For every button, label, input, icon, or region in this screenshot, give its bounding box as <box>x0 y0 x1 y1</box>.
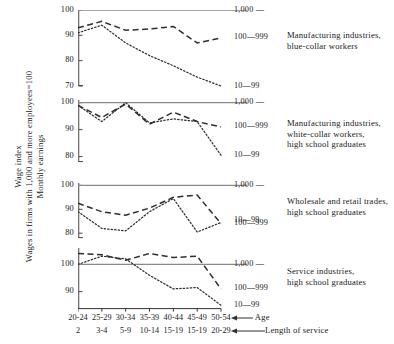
y-axis-tick-label: 90 <box>52 286 74 295</box>
service-annotation-label: Length of service <box>265 325 329 335</box>
x-tick-label-age: 35-39 <box>140 313 160 322</box>
y-axis-title-line-1: Wage index <box>13 42 24 292</box>
panel-caption-line: high school graduates <box>287 139 381 150</box>
series-key-label: 1,000 — <box>234 5 264 14</box>
x-tick-label-service: 10-14 <box>140 326 160 335</box>
wage-index-figure: Wage index Wages in firms with 1,000 and… <box>0 0 394 344</box>
data-series-line <box>78 195 221 224</box>
age-annotation-label: Age <box>253 312 270 322</box>
y-axis-tick-label: 90 <box>52 204 74 213</box>
panel-caption: Manufacturing industries,blue-collar wor… <box>287 30 381 51</box>
y-axis-tick-label: 100 <box>52 259 74 268</box>
data-series-line <box>78 25 221 86</box>
service-arrow-icon <box>231 327 265 335</box>
panel-caption-line: blue-collar workers <box>287 41 381 52</box>
x-tick-label-service: 5-9 <box>120 326 131 335</box>
x-tick-label-age: 50-54 <box>211 313 231 322</box>
chart-panel <box>78 183 221 238</box>
x-tick-label-age: 45-49 <box>187 313 207 322</box>
data-series-line <box>78 104 221 127</box>
y-axis-tick-label: 100 <box>52 5 74 14</box>
x-tick-label-age: 20-24 <box>68 313 88 322</box>
panel-plot <box>78 100 255 164</box>
y-axis-title-line-3: Monthly earnings <box>35 42 46 292</box>
data-series-line <box>78 256 221 305</box>
chart-panel <box>78 10 221 86</box>
x-axis <box>78 308 227 314</box>
panel-caption-line: Service industries, <box>287 266 366 277</box>
series-key-label: 10—99 <box>234 215 260 224</box>
x-axis-age-ticks: 20-2425-2930-3435-3940-4445-4950-54 <box>78 313 221 325</box>
series-key-label: 10—99 <box>234 300 260 309</box>
panel-caption-line: high school graduates <box>287 277 366 288</box>
panel-caption: Service industries,high school graduates <box>287 266 366 287</box>
y-axis-tick-label: 100 <box>52 97 74 106</box>
series-key-label: 10—99 <box>234 150 260 159</box>
chart-panel <box>78 248 221 308</box>
panel-caption-line: Wholesale and retail trades, <box>287 196 388 207</box>
panel-caption-line: high school graduates <box>287 207 388 218</box>
series-key-label: 100—999 <box>234 32 268 41</box>
chart-panel <box>78 100 221 162</box>
panel-caption: Manufacturing industries,white-collar wo… <box>287 118 381 150</box>
series-key-label: 100—999 <box>234 121 268 130</box>
y-axis-title: Wage index Wages in firms with 1,000 and… <box>13 42 46 292</box>
y-axis-tick-label: 90 <box>52 124 74 133</box>
x-axis-service-ticks: 23-45-910-1415-1915-1920-29 <box>78 326 221 338</box>
x-tick-label-service: 20-29 <box>211 326 231 335</box>
y-axis-tick-label: 80 <box>52 228 74 237</box>
x-tick-label-age: 40-44 <box>164 313 184 322</box>
y-axis-tick-label: 100 <box>52 180 74 189</box>
panel-caption-line: white-collar workers, <box>287 129 381 140</box>
x-tick-label-service: 3-4 <box>96 326 107 335</box>
series-key-label: 1,000 — <box>234 180 264 189</box>
age-arrow-icon <box>231 314 253 322</box>
data-series-line <box>78 253 221 288</box>
y-axis-title-line-2: Wages in firms with 1,000 and more emplo… <box>24 42 35 292</box>
series-key-label: 100—999 <box>234 283 268 292</box>
series-key-label: 1,000 — <box>234 97 264 106</box>
series-key-label: 1,000 — <box>234 259 264 268</box>
panel-plot <box>78 183 255 240</box>
x-tick-label-service: 15-19 <box>164 326 184 335</box>
series-key-label: 10—99 <box>234 81 260 90</box>
y-axis-tick-label: 70 <box>52 81 74 90</box>
x-tick-label-age: 25-29 <box>92 313 112 322</box>
x-tick-label-age: 30-34 <box>116 313 136 322</box>
panel-plot <box>78 10 255 88</box>
y-axis-tick-label: 80 <box>52 151 74 160</box>
panel-plot <box>78 248 255 310</box>
y-axis-tick-label: 90 <box>52 30 74 39</box>
y-axis-tick-label: 80 <box>52 55 74 64</box>
x-tick-label-service: 2 <box>76 326 80 335</box>
panel-caption-line: Manufacturing industries, <box>287 118 381 129</box>
panel-caption-line: Manufacturing industries, <box>287 30 381 41</box>
data-series-line <box>78 103 221 156</box>
data-series-line <box>78 21 221 43</box>
age-annotation: Age <box>231 312 270 322</box>
panel-caption: Wholesale and retail trades,high school … <box>287 196 388 217</box>
data-series-line <box>78 199 221 232</box>
x-tick-label-service: 15-19 <box>187 326 207 335</box>
service-annotation: Length of service <box>231 325 329 335</box>
